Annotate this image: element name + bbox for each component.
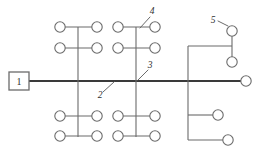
node-trunk-end [241,76,251,86]
source-label: 1 [17,76,22,87]
node-lower-mid-b [150,111,160,121]
node-upper-mid-b [150,22,160,32]
node-lower-left-a [55,111,65,121]
node-right-mid [213,110,223,120]
node-lower-mid-d [150,131,160,141]
node-upper-mid-c [113,43,123,53]
callout-label-2: 2 [98,90,103,100]
node-upper-left-d [92,43,102,53]
node-upper-left-a [55,22,65,32]
node-upper-mid-a [113,22,123,32]
diagram-root: 1 2 3 4 5 [0,0,262,154]
callout-label-5: 5 [211,15,216,25]
node-right-lower [223,135,233,145]
callout-label-4: 4 [150,6,155,16]
node-right-top [227,26,237,36]
node-upper-left-b [92,22,102,32]
node-upper-left-c [55,43,65,53]
node-lower-mid-a [113,111,123,121]
leader-line-2 [103,82,114,92]
node-lower-mid-c [113,131,123,141]
node-upper-mid-d [150,43,160,53]
node-lower-left-b [92,111,102,121]
node-lower-left-d [92,131,102,141]
callout-label-3: 3 [147,60,153,70]
schematic-canvas: 1 2 3 4 5 [0,0,262,154]
node-lower-left-c [55,131,65,141]
node-right-upper [227,57,237,67]
leader-line-4 [140,17,150,28]
leader-line-5 [218,21,228,26]
leader-line-3 [138,70,148,80]
